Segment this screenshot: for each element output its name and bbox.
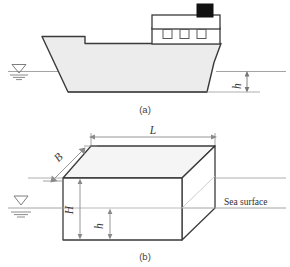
panel-b-group: L B <box>8 124 286 262</box>
figure-container: h (a) L <box>0 0 290 267</box>
technical-diagram: h (a) L <box>0 0 290 267</box>
breadth-dimension-label: B <box>51 150 64 163</box>
height-dimension-label: H <box>63 205 75 215</box>
panel-a-caption: (a) <box>139 104 151 115</box>
length-dimension-group: L <box>89 124 217 146</box>
draft-dimension-label: h <box>93 223 105 229</box>
cabin-window-1 <box>163 30 172 39</box>
cabin-window-2 <box>180 30 189 39</box>
water-level-icon-b <box>11 196 31 217</box>
panel-b-caption: (b) <box>139 251 151 262</box>
panel-a-group: h (a) <box>8 4 286 115</box>
smokestack-icon <box>197 4 213 17</box>
length-dimension-label: L <box>149 124 156 136</box>
box-front-face <box>63 178 182 240</box>
draft-dimension-a: h <box>207 71 260 93</box>
water-level-icon <box>10 65 28 80</box>
draft-depth-label-a: h <box>231 83 243 89</box>
sea-surface-label: Sea surface <box>224 197 268 207</box>
ship-hull <box>42 37 221 93</box>
water-level-triangle-icon-b <box>14 196 28 205</box>
length-arrowhead-left <box>89 135 95 140</box>
cabin-window-3 <box>197 30 206 39</box>
length-arrowhead-right <box>211 135 217 140</box>
